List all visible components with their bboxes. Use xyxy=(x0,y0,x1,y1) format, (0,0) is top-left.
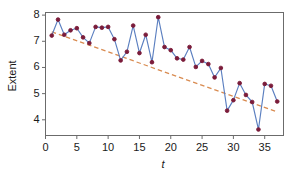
data-point-marker xyxy=(56,18,60,22)
data-point-marker xyxy=(232,98,236,102)
y-axis-title: Extent xyxy=(6,60,18,91)
data-point-marker xyxy=(119,59,123,63)
data-point-marker xyxy=(125,50,129,54)
data-point-marker xyxy=(163,45,167,49)
data-point-marker xyxy=(188,45,192,49)
x-tick-label: 0 xyxy=(42,141,48,153)
chart-canvas: 45678 05101520253035 Extent t xyxy=(0,0,295,182)
data-point-marker xyxy=(257,128,261,132)
data-point-marker xyxy=(244,93,248,97)
data-point-marker xyxy=(225,109,229,113)
data-point-marker xyxy=(238,81,242,85)
x-tick-label: 15 xyxy=(133,141,145,153)
data-point-marker xyxy=(150,60,154,64)
x-tick-label: 5 xyxy=(74,141,80,153)
y-tick-label: 5 xyxy=(33,87,39,99)
data-point-marker xyxy=(106,25,110,29)
data-point-marker xyxy=(156,15,160,19)
plot-background xyxy=(0,0,295,182)
data-point-marker xyxy=(94,25,98,29)
data-point-marker xyxy=(75,26,79,30)
data-point-marker xyxy=(213,76,217,80)
chart-figure: 45678 05101520253035 Extent t xyxy=(0,0,295,182)
x-tick-label: 20 xyxy=(165,141,177,153)
x-tick-label: 35 xyxy=(259,141,271,153)
data-point-marker xyxy=(144,33,148,37)
data-point-marker xyxy=(181,58,185,62)
data-point-marker xyxy=(169,48,173,52)
data-point-marker xyxy=(100,26,104,30)
data-point-marker xyxy=(275,100,279,104)
x-tick-label: 30 xyxy=(227,141,239,153)
data-point-marker xyxy=(138,51,142,55)
y-tick-label: 4 xyxy=(33,113,39,125)
data-point-marker xyxy=(206,62,210,66)
x-tick-label: 25 xyxy=(196,141,208,153)
data-point-marker xyxy=(219,66,223,70)
y-tick-label: 7 xyxy=(33,34,39,46)
y-tick-label: 6 xyxy=(33,60,39,72)
data-point-marker xyxy=(175,56,179,60)
data-point-marker xyxy=(200,59,204,63)
data-point-marker xyxy=(62,33,66,37)
data-point-marker xyxy=(269,84,273,88)
data-point-marker xyxy=(87,41,91,45)
data-point-marker xyxy=(263,82,267,86)
data-point-marker xyxy=(69,28,73,32)
x-tick-label: 10 xyxy=(102,141,114,153)
data-point-marker xyxy=(81,36,85,40)
y-tick-label: 8 xyxy=(33,8,39,20)
data-point-marker xyxy=(131,24,135,28)
data-point-marker xyxy=(250,100,254,104)
data-point-marker xyxy=(50,34,54,38)
data-point-marker xyxy=(194,65,198,69)
data-point-marker xyxy=(113,37,117,41)
